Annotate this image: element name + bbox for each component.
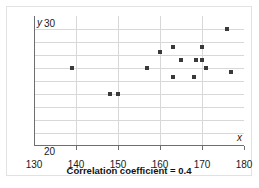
gridline-horizontal [34, 120, 244, 121]
data-point [204, 66, 208, 70]
x-tick-140 [76, 146, 77, 150]
data-point [108, 92, 112, 96]
data-point [171, 45, 175, 49]
x-tick-150 [118, 146, 119, 150]
x-axis-label: x [237, 132, 242, 143]
x-tick-160 [160, 146, 161, 150]
data-point [145, 66, 149, 70]
plot-area: y x 30 20 130140150160170180 [34, 16, 244, 146]
gridline-vertical [76, 16, 77, 146]
gridline-horizontal [34, 29, 244, 30]
gridline-horizontal [34, 94, 244, 95]
data-point [194, 58, 198, 62]
data-point [200, 58, 204, 62]
gridline-horizontal [34, 133, 244, 134]
y-tick-label-30: 30 [33, 18, 55, 29]
gridline-horizontal [34, 68, 244, 69]
scatter-plot-figure: y x 30 20 130140150160170180 Correlation… [6, 6, 252, 176]
y-tick-label-20: 20 [33, 146, 55, 157]
gridline-vertical [202, 16, 203, 146]
gridline-vertical [118, 16, 119, 146]
gridline-horizontal [34, 81, 244, 82]
gridline-vertical [160, 16, 161, 146]
y-axis-line [34, 16, 35, 146]
gridline-horizontal [34, 42, 244, 43]
chart-caption: Correlation coefficient = 0.4 [7, 165, 251, 176]
gridline-horizontal [34, 55, 244, 56]
data-point [179, 58, 183, 62]
data-point [192, 75, 196, 79]
data-point [158, 50, 162, 54]
data-point [200, 45, 204, 49]
x-tick-170 [202, 146, 203, 150]
x-tick-180 [244, 146, 245, 150]
data-point [70, 66, 74, 70]
data-point [229, 70, 233, 74]
gridline-horizontal [34, 107, 244, 108]
x-axis-line [34, 145, 244, 146]
data-point [225, 27, 229, 31]
data-point [116, 92, 120, 96]
data-point [171, 75, 175, 79]
